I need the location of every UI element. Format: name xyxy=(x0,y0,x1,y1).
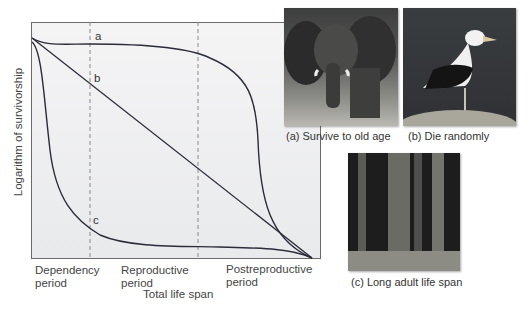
photo-caption-c: (c) Long adult life span xyxy=(351,276,462,288)
period-line1: Dependency xyxy=(35,264,100,277)
x-axis-label: Total life span xyxy=(143,288,213,300)
period-line2: period xyxy=(226,276,312,289)
curve-b xyxy=(32,38,312,258)
redwood-trees-photo xyxy=(348,153,460,271)
seagull-photo xyxy=(403,8,516,126)
y-axis-label: Logarithm of survivorship xyxy=(12,52,24,212)
period-line1: Reproductive xyxy=(121,264,189,277)
seagull-icon xyxy=(403,8,516,126)
photo-caption-b: (b) Die randomly xyxy=(408,130,489,142)
elephant-photo xyxy=(284,8,398,126)
period-postreproductive: Postreproductive period xyxy=(226,263,312,288)
period-line2: period xyxy=(35,277,100,290)
trees-icon xyxy=(348,153,460,271)
curve-label-b: b xyxy=(94,72,100,84)
elephant-icon xyxy=(284,8,398,126)
photo-caption-a: (a) Survive to old age xyxy=(286,130,391,142)
curve-label-c: c xyxy=(93,214,99,226)
curve-label-a: a xyxy=(95,30,102,42)
period-dependency: Dependency period xyxy=(35,264,100,289)
period-line1: Postreproductive xyxy=(226,263,312,276)
period-reproductive: Reproductive period xyxy=(121,264,189,289)
